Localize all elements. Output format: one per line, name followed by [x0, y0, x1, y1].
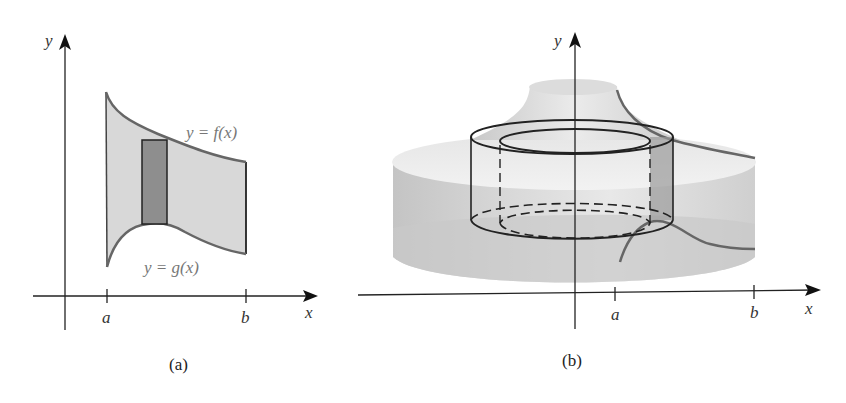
tick-a-label: a	[611, 305, 620, 324]
tick-b-label: b	[750, 303, 759, 322]
tick-a-label: a	[102, 308, 111, 327]
lower-curve-label: y = g(x)	[142, 258, 199, 277]
panel-b: y x a b (b)	[358, 31, 821, 370]
solid-lower-band	[393, 215, 755, 283]
figure-canvas: y x a b y = f(x) y = g(x) (a)	[0, 0, 846, 403]
y-axis-label: y	[552, 31, 562, 50]
panel-a: y x a b y = f(x) y = g(x) (a)	[33, 31, 318, 374]
representative-strip	[142, 140, 167, 224]
tick-b-label: b	[241, 308, 250, 327]
shell-strip-shade	[650, 137, 673, 220]
caption-b: (b)	[562, 351, 582, 370]
x-axis-label: x	[304, 303, 313, 322]
upper-curve-label: y = f(x)	[184, 123, 237, 142]
x-axis	[358, 290, 815, 295]
y-axis-label: y	[43, 31, 53, 50]
caption-a: (a)	[169, 355, 188, 374]
left-boundary-line	[106, 92, 107, 267]
solid-neck-top	[529, 79, 617, 95]
solid-top-surface	[392, 134, 756, 190]
x-axis-label: x	[804, 299, 813, 318]
